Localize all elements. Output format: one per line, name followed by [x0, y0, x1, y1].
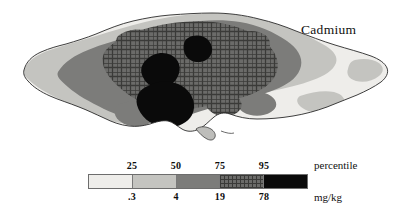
legend-percentile-unit: percentile	[314, 159, 357, 171]
legend-swatch-95-100	[263, 175, 307, 188]
legend-swatch-0-25	[89, 175, 132, 188]
value-tick-4: 4	[173, 191, 178, 202]
legend: 25 50 75 95 percentile .3 4 19 78 mg/kg	[0, 158, 411, 211]
south-coast-cays	[221, 131, 234, 133]
figure-root: Cadmium 25 50 75 95 percentile .3 4 19 7…	[0, 0, 411, 211]
legend-value-ticks: .3 4 19 78	[0, 191, 411, 204]
percentile-tick-75: 75	[215, 160, 225, 171]
map-title: Cadmium	[301, 22, 356, 38]
legend-swatch-50-75	[176, 175, 220, 188]
legend-swatch-75-95	[219, 175, 263, 188]
value-tick-78: 78	[259, 191, 269, 202]
southern-peninsula	[196, 127, 215, 140]
map-figure: Cadmium	[0, 0, 411, 160]
percentile-tick-95: 95	[259, 160, 269, 171]
legend-value-unit: mg/kg	[314, 191, 342, 203]
percentile-tick-25: 25	[127, 160, 137, 171]
legend-color-bar	[88, 174, 308, 189]
value-tick-0-3: .3	[128, 191, 136, 202]
legend-swatch-25-50	[132, 175, 176, 188]
value-tick-19: 19	[215, 191, 225, 202]
percentile-tick-50: 50	[171, 160, 181, 171]
